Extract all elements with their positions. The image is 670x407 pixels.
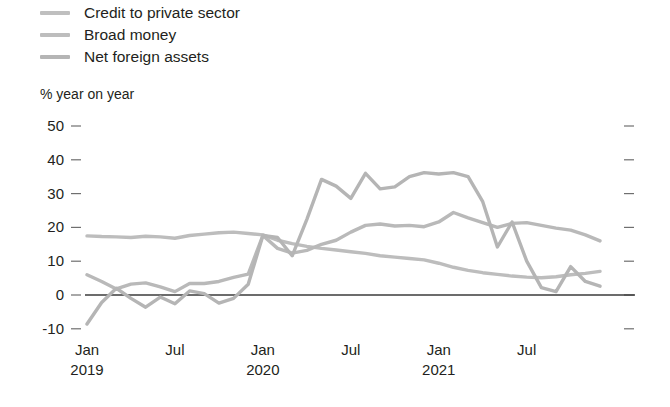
y-tick-label: 50 xyxy=(22,118,64,133)
x-tick-year: 2020 xyxy=(246,360,279,380)
y-axis-ticks-right xyxy=(624,126,634,329)
x-tick-label: Jan2019 xyxy=(70,340,103,379)
x-tick-month: Jan xyxy=(75,341,99,358)
chart-page: Credit to private sector Broad money Net… xyxy=(0,0,670,407)
y-tick-label: 10 xyxy=(22,253,64,268)
y-tick-label: -10 xyxy=(22,321,64,336)
series-lines xyxy=(87,173,600,324)
x-tick-label: Jul xyxy=(341,340,360,360)
x-tick-month: Jul xyxy=(517,341,536,358)
x-tick-label: Jul xyxy=(165,340,184,360)
y-tick-label: 20 xyxy=(22,219,64,234)
x-tick-month: Jan xyxy=(427,341,451,358)
x-tick-month: Jul xyxy=(341,341,360,358)
series-line-net-foreign-assets xyxy=(87,173,600,324)
x-tick-label: Jan2020 xyxy=(246,340,279,379)
x-tick-year: 2019 xyxy=(70,360,103,380)
x-tick-label: Jan2021 xyxy=(422,340,455,379)
x-tick-month: Jul xyxy=(165,341,184,358)
plot-area: 50403020100-10 Jan2019JulJan2020JulJan20… xyxy=(0,0,670,407)
y-tick-label: 40 xyxy=(22,152,64,167)
y-tick-label: 30 xyxy=(22,186,64,201)
x-tick-year: 2021 xyxy=(422,360,455,380)
x-tick-label: Jul xyxy=(517,340,536,360)
y-axis-ticks-left xyxy=(71,126,81,329)
y-tick-label: 0 xyxy=(22,287,64,302)
x-tick-month: Jan xyxy=(251,341,275,358)
